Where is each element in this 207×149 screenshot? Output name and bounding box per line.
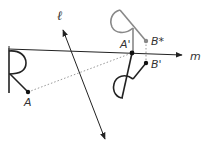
line-l [63,30,105,139]
point-a-label: A [23,96,32,109]
original-figure-r [9,50,28,93]
point-a [26,90,30,94]
line-l-label: ℓ [57,8,63,23]
point-b-prime [144,61,148,65]
line-m-label: m [190,50,201,63]
point-b-prime-label: B' [151,58,162,71]
point-a-prime-label: A' [119,38,131,51]
image-figure-b-prime [114,53,146,98]
point-b-star [144,39,148,43]
point-a-prime [130,51,135,56]
reflection-diagram: m ℓ A B* A' B' [0,0,207,149]
point-b-star-label: B* [151,35,165,48]
dotted-a-to-aprime [28,53,132,92]
